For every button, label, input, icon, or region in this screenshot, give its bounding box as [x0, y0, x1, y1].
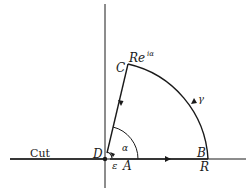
arrow-up-icon — [191, 98, 197, 104]
label-Re: Re — [128, 51, 145, 65]
contour-diagram: Cut D C Re iα γ α ε A B R — [0, 0, 249, 191]
diagram-svg: Cut D C Re iα γ α ε A B R — [0, 0, 249, 191]
label-alpha: α — [122, 143, 128, 153]
label-epsilon: ε — [112, 160, 117, 171]
label-A: A — [122, 159, 132, 173]
segment-CD — [107, 64, 128, 153]
arc-gamma — [128, 64, 208, 159]
label-B: B — [196, 146, 206, 160]
label-C: C — [116, 61, 125, 75]
label-D: D — [92, 147, 103, 161]
label-R: R — [199, 160, 209, 174]
arrow-right-icon — [165, 156, 171, 162]
label-exponent: iα — [147, 50, 154, 58]
label-cut: Cut — [30, 147, 51, 160]
origin-dot — [103, 157, 107, 161]
label-gamma: γ — [198, 93, 204, 104]
